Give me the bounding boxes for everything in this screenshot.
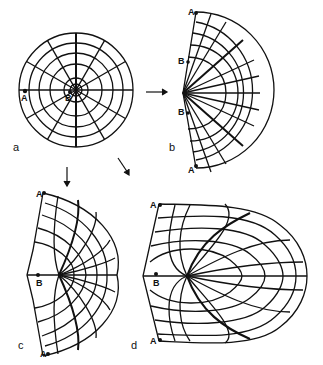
point-d-A-bottom: A [150, 337, 157, 346]
point-c-B: B [36, 279, 43, 288]
point-a-B: B [65, 94, 72, 103]
point-c-A-bottom: A [40, 350, 47, 359]
point-a-A: A [21, 94, 28, 103]
panel-label-a: a [13, 142, 19, 153]
point-c-A-top: A [36, 190, 43, 199]
point-b-A-bottom: A [188, 166, 195, 175]
point-b-A-top: A [188, 8, 195, 17]
point-d-A-top: A [150, 201, 157, 210]
panel-d-grid [143, 204, 307, 343]
panel-label-d: d [131, 340, 137, 351]
panel-c-grid [27, 193, 118, 356]
point-b-B-top: B [178, 57, 185, 66]
point-b-B-bottom: B [178, 108, 185, 117]
panel-a-grid [19, 33, 133, 147]
panel-b-grid [183, 12, 274, 172]
panel-label-b: b [169, 142, 175, 153]
panel-label-c: c [18, 340, 24, 351]
figure-canvas [0, 0, 323, 365]
point-d-B: B [153, 279, 160, 288]
